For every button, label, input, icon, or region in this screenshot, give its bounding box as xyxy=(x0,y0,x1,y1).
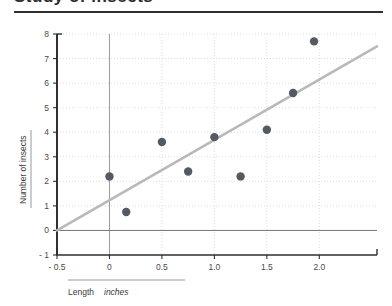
data-point xyxy=(105,172,113,180)
clipped-heading-band: Study of insects xyxy=(0,0,392,9)
y-tick-label: 1 xyxy=(44,201,49,211)
y-tick-label: 3 xyxy=(44,152,49,162)
x-tick-label: - 0.5 xyxy=(48,262,65,272)
x-tick-label: 1.5 xyxy=(261,262,273,272)
y-tick-label: 0 xyxy=(44,225,49,235)
y-tick-label: - 1 xyxy=(39,250,49,260)
x-axis-title-units: inches xyxy=(104,287,129,297)
data-point xyxy=(289,89,297,97)
x-tick-labels: - 0.500.51.01.52.0 xyxy=(48,262,325,272)
y-tick-label: 6 xyxy=(44,78,49,88)
zero-reference-lines xyxy=(57,34,377,255)
y-tick-label: 5 xyxy=(44,103,49,113)
data-point xyxy=(263,126,271,134)
data-point xyxy=(236,172,244,180)
data-point xyxy=(210,133,218,141)
grid-lines xyxy=(57,34,377,255)
data-point xyxy=(310,37,318,45)
chart-canvas: - 1012345678 - 0.500.51.01.52.0 Number o… xyxy=(0,18,392,306)
axis-frame xyxy=(56,34,377,255)
axis-ticks xyxy=(53,34,319,259)
x-tick-label: 2.0 xyxy=(313,262,325,272)
data-point xyxy=(122,208,130,216)
clipped-heading-text: Study of insects xyxy=(14,0,153,7)
y-axis-title: Number of insects xyxy=(18,136,28,205)
data-points xyxy=(105,37,318,216)
scatter-chart-figure: - 1012345678 - 0.500.51.01.52.0 Number o… xyxy=(0,18,392,306)
x-tick-label: 1.0 xyxy=(208,262,220,272)
x-tick-label: 0.5 xyxy=(156,262,168,272)
y-tick-label: 8 xyxy=(44,29,49,39)
y-tick-label: 2 xyxy=(44,176,49,186)
data-point xyxy=(184,167,192,175)
y-tick-label: 7 xyxy=(44,54,49,64)
data-point xyxy=(158,138,166,146)
y-tick-labels: - 1012345678 xyxy=(39,29,49,260)
y-tick-label: 4 xyxy=(44,127,49,137)
title-divider-rule xyxy=(14,11,383,13)
x-axis-title: Length xyxy=(68,287,94,297)
x-tick-label: 0 xyxy=(107,262,112,272)
